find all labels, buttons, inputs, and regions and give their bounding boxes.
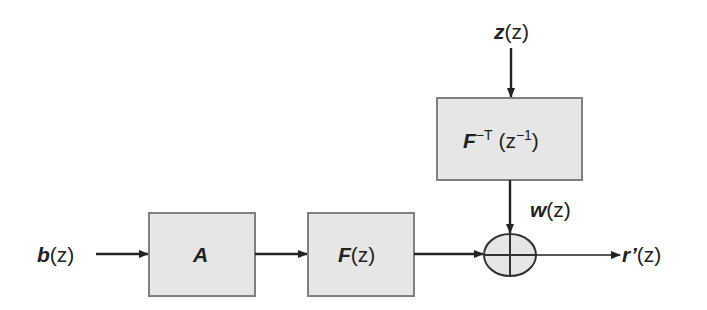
z-symbol: z [494,20,505,43]
finv-symbol: F [463,129,476,152]
f-arg: (z) [351,243,376,266]
r-arg: (z) [637,243,662,266]
label-w: w(z) [530,199,571,220]
label-z: z(z) [494,21,529,42]
finv-arg-open: (z [493,129,516,152]
w-symbol: w [530,198,546,221]
r-symbol: r’ [622,243,637,266]
b-arg: (z) [50,243,75,266]
label-a: A [193,244,208,265]
finv-arg-sup: −1 [516,127,532,143]
label-f: F(z) [338,244,375,265]
z-arg: (z) [505,20,530,43]
label-finv: F−T (z−1) [463,130,539,151]
finv-sup: −T [476,127,493,143]
label-r: r’(z) [622,244,661,265]
summing-junction-icon [484,234,536,276]
b-symbol: b [37,243,50,266]
w-arg: (z) [546,198,571,221]
a-symbol: A [193,243,208,266]
label-b: b(z) [37,244,74,265]
finv-arg-close: ) [532,129,539,152]
f-symbol: F [338,243,351,266]
